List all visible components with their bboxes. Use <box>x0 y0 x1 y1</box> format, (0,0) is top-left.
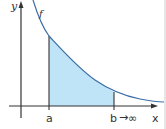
y-axis-label: y <box>10 0 18 13</box>
x-axis-label: x <box>152 112 159 125</box>
y-axis-arrowhead-icon <box>19 1 24 8</box>
curve-label: f <box>38 8 45 19</box>
x-axis-arrowhead-icon <box>151 104 158 109</box>
infinity-label: ∞ <box>128 112 137 125</box>
upper-bound-label: b <box>110 112 117 125</box>
lower-bound-label: a <box>46 112 53 125</box>
improper-integral-diagram: y f a b → ∞ x <box>0 0 166 129</box>
limit-arrow-icon: → <box>119 111 128 124</box>
image-edge <box>164 0 166 129</box>
